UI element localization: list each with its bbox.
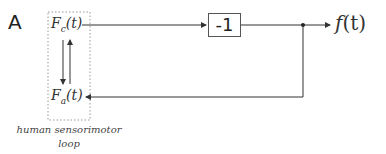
fc-base: F [51,15,61,31]
output-label: f(t) [335,11,366,35]
caption-line2: loop [4,137,134,151]
fa-arg: (t) [66,87,83,103]
caption-line1: human sensorimotor [4,123,134,137]
panel-label: A [8,10,22,34]
caption: human sensorimotor loop [4,123,134,151]
fa-base: F [51,87,61,103]
fc-node: Fc(t) [51,15,82,34]
feedback-arrow [86,25,303,97]
diagram: A Fc(t) Fa(t) -1 f(t) human sensorimotor… [0,0,386,154]
output-arg: (t) [342,11,366,35]
gain-block: -1 [208,13,241,37]
fa-node: Fa(t) [51,87,83,106]
fc-arg: (t) [66,15,83,31]
